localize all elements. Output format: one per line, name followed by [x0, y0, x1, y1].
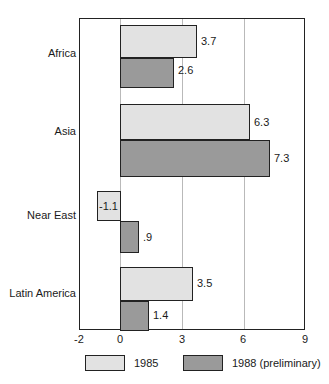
bar-africa-1985[interactable] [120, 25, 197, 58]
bar-value-africa-1985: 3.7 [201, 35, 216, 47]
bar-africa-1988[interactable] [120, 58, 174, 88]
chart-legend: 1985 1988 (preliminary) [0, 353, 329, 377]
xtick-label--2: -2 [67, 333, 91, 345]
xtick-label-0: 0 [108, 333, 132, 345]
bar-value-latin-america-1988: 1.4 [153, 309, 168, 321]
category-label-near-east: Near East [27, 209, 76, 221]
legend-swatch-1988 [183, 355, 223, 371]
bar-asia-1988[interactable] [120, 140, 270, 177]
xtick-label-6: 6 [231, 333, 255, 345]
category-label-asia: Asia [55, 125, 76, 137]
legend-swatch-1985 [85, 355, 125, 371]
bar-value-africa-1988: 2.6 [178, 64, 193, 76]
xtick-label-9: 9 [293, 333, 317, 345]
bar-value-near-east-1985: -1.1 [99, 200, 118, 212]
bar-asia-1985[interactable] [120, 104, 250, 140]
legend-label-1985: 1985 [134, 357, 158, 370]
category-label-latin-america: Latin America [9, 287, 76, 299]
category-label-africa: Africa [48, 47, 76, 59]
bar-value-latin-america-1985: 3.5 [197, 277, 212, 289]
bar-latin-america-1988[interactable] [120, 301, 149, 331]
bar-value-asia-1988: 7.3 [274, 152, 289, 164]
xtick-label-3: 3 [170, 333, 194, 345]
legend-label-1988: 1988 (preliminary) [232, 357, 321, 370]
bar-near-east-1988[interactable] [120, 221, 139, 253]
bar-latin-america-1985[interactable] [120, 267, 193, 301]
bar-value-asia-1985: 6.3 [254, 116, 269, 128]
bar-chart: Africa Asia Near East Latin America 3.7 … [0, 0, 329, 384]
plot-area: 3.7 2.6 6.3 7.3 -1.1 .9 3.5 1.4 [79, 18, 305, 330]
bar-value-near-east-1988: .9 [143, 231, 152, 243]
